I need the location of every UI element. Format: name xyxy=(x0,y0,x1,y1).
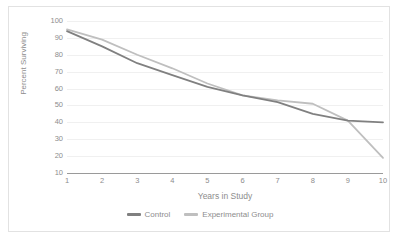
x-tick-label: 9 xyxy=(333,176,363,186)
x-tick-label: 3 xyxy=(122,176,152,186)
x-tick-label: 5 xyxy=(192,176,222,186)
y-tick-label: 40 xyxy=(17,118,63,126)
legend-label: Control xyxy=(145,210,171,219)
x-tick-label: 2 xyxy=(87,176,117,186)
x-axis-tick-labels: 12345678910 xyxy=(67,176,383,188)
series-line-experimental-group xyxy=(67,29,383,157)
plot-area xyxy=(67,21,383,173)
legend-item-experimental-group[interactable]: Experimental Group xyxy=(184,210,273,219)
y-tick-label: 80 xyxy=(17,51,63,59)
x-tick-label: 7 xyxy=(263,176,293,186)
x-tick-label: 1 xyxy=(52,176,82,186)
x-tick-label: 8 xyxy=(298,176,328,186)
chart-figure: Percent Surviving 102030405060708090100 … xyxy=(8,6,390,232)
y-tick-label: 90 xyxy=(17,34,63,42)
y-tick-label: 20 xyxy=(17,152,63,160)
y-tick-label: 100 xyxy=(17,17,63,25)
x-tick-label: 6 xyxy=(228,176,258,186)
legend-swatch-icon xyxy=(184,213,198,216)
legend-swatch-icon xyxy=(127,213,141,216)
y-tick-label: 70 xyxy=(17,68,63,76)
x-tick-label: 10 xyxy=(368,176,398,186)
legend-item-control[interactable]: Control xyxy=(127,210,171,219)
y-tick-label: 60 xyxy=(17,85,63,93)
chart-legend: ControlExperimental Group xyxy=(9,210,391,219)
y-tick-label: 30 xyxy=(17,135,63,143)
legend-label: Experimental Group xyxy=(202,210,273,219)
series-lines xyxy=(67,21,383,173)
y-tick-label: 50 xyxy=(17,101,63,109)
y-axis-tick-labels: 102030405060708090100 xyxy=(13,21,63,173)
x-axis-baseline xyxy=(67,173,383,174)
x-tick-label: 4 xyxy=(157,176,187,186)
x-axis-title: Years in Study xyxy=(67,191,383,201)
